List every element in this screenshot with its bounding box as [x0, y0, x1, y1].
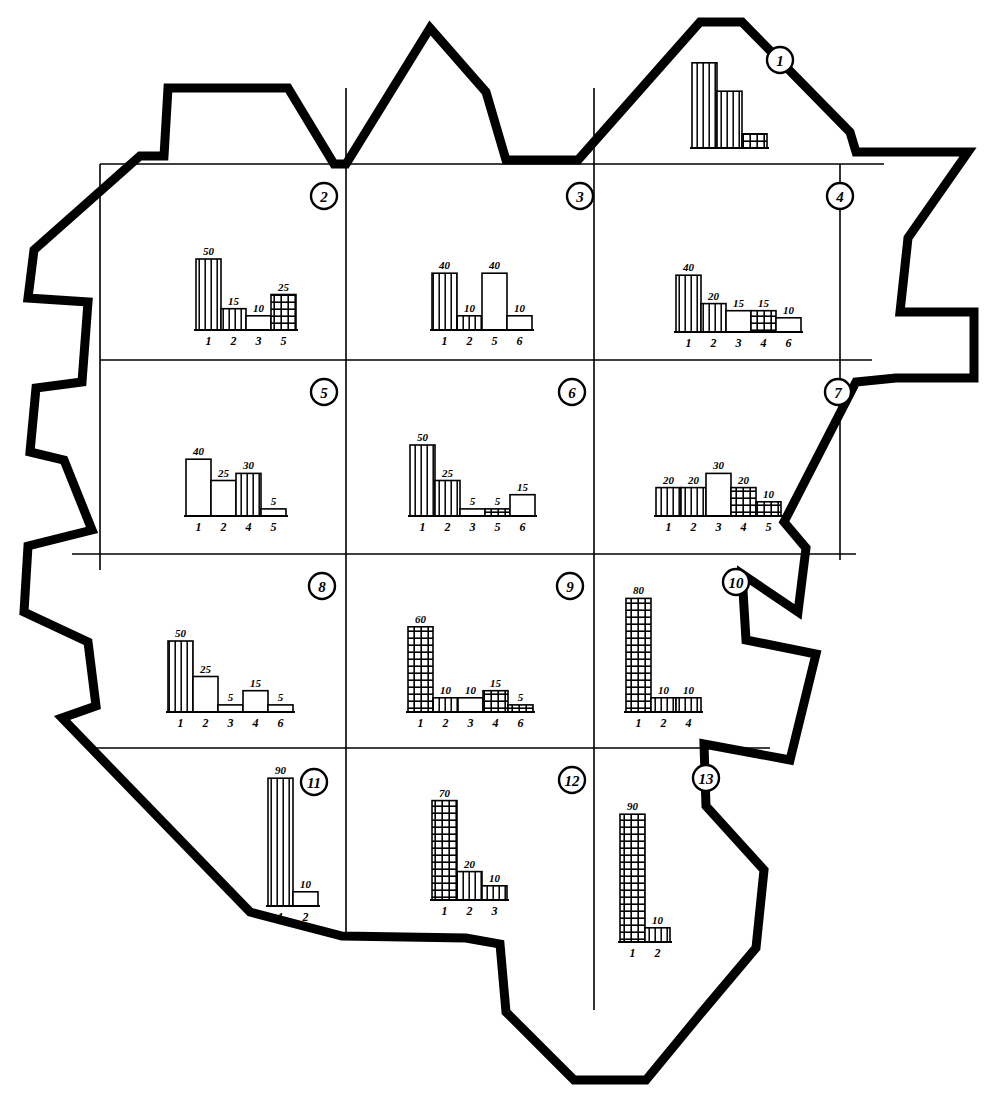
bar-value-label: 25: [217, 467, 230, 479]
district-marker-label: 5: [320, 385, 328, 401]
bar-category-label: 5: [495, 520, 501, 534]
district-marker-12[interactable]: 12: [559, 767, 585, 793]
district-marker-11[interactable]: 11: [301, 769, 327, 795]
bar-value-label: 10: [253, 302, 265, 314]
bar-category-label: 3: [227, 716, 234, 730]
bar-district-4-3: [726, 311, 751, 332]
bar-district-5-4: [261, 509, 286, 516]
bar-district-2-2: [221, 309, 246, 330]
district-marker-13[interactable]: 13: [693, 765, 719, 791]
bar-value-label: 15: [758, 297, 770, 309]
bar-category-label: 1: [442, 904, 448, 918]
district-marker-6[interactable]: 6: [559, 379, 585, 405]
bar-value-label: 20: [463, 858, 476, 870]
bar-category-label: 5: [492, 334, 498, 348]
district-marker-label: 6: [568, 385, 576, 401]
bar-category-label: 4: [760, 336, 767, 350]
bar-district-9-1: [408, 627, 433, 712]
bar-category-label: 6: [517, 334, 523, 348]
bar-value-label: 5: [228, 691, 234, 703]
bar-category-label: 5: [271, 520, 277, 534]
bar-category-label: 2: [444, 520, 451, 534]
district-marker-8[interactable]: 8: [309, 573, 335, 599]
bar-value-label: 30: [712, 459, 725, 471]
bar-value-label: 40: [682, 261, 695, 273]
bar-category-label: 1: [420, 520, 426, 534]
district-marker-label: 1: [776, 53, 784, 69]
district-marker-10[interactable]: 10: [723, 569, 749, 595]
district-marker-9[interactable]: 9: [557, 573, 583, 599]
bar-chart-district-5: 40125230455: [184, 445, 288, 534]
bar-category-label: 1: [636, 716, 642, 730]
bar-value-label: 50: [417, 431, 429, 443]
district-marker-label: 4: [835, 189, 844, 205]
bar-category-label: 4: [252, 716, 259, 730]
bar-district-4-5: [776, 318, 801, 332]
bar-category-label: 3: [491, 904, 498, 918]
bar-value-label: 5: [495, 495, 501, 507]
district-marker-1[interactable]: 1: [767, 47, 793, 73]
bar-district-7-2: [681, 488, 706, 516]
bar-district-11-2: [293, 892, 318, 906]
bar-category-label: 6: [518, 716, 524, 730]
bar-chart-district-7: 201202303204105: [654, 459, 783, 534]
bar-value-label: 15: [250, 677, 262, 689]
bar-value-label: 10: [763, 488, 775, 500]
bar-district-9-4: [483, 691, 508, 712]
bar-category-label: 2: [710, 336, 717, 350]
district-marker-3[interactable]: 3: [567, 183, 593, 209]
district-marker-label: 13: [699, 771, 715, 787]
map-canvas: 5011521032554011024051064012021531541064…: [0, 0, 988, 1107]
district-marker-label: 11: [307, 775, 321, 791]
district-marker-5[interactable]: 5: [311, 379, 337, 405]
bar-value-label: 10: [514, 302, 526, 314]
bar-category-label: 3: [715, 520, 722, 534]
bar-district-10-1: [626, 598, 651, 712]
bar-chart-district-13: 901102: [618, 800, 672, 960]
bar-value-label: 50: [203, 245, 215, 257]
bar-district-6-1: [410, 445, 435, 516]
bar-value-label: 5: [518, 691, 524, 703]
bar-value-label: 5: [470, 495, 476, 507]
bar-value-label: 25: [277, 281, 290, 293]
bar-value-label: 90: [275, 764, 287, 776]
bar-value-label: 10: [465, 684, 477, 696]
bar-value-label: 10: [783, 304, 795, 316]
bar-category-label: 4: [685, 716, 692, 730]
bar-district-9-2: [433, 698, 458, 712]
bar-value-label: 25: [199, 663, 212, 675]
bar-chart-district-8: 5012525315456: [166, 627, 295, 730]
bar-value-label: 10: [300, 878, 312, 890]
bar-district-7-1: [656, 488, 681, 516]
district-charts: 5011521032554011024051064012021531541064…: [166, 63, 803, 960]
bar-chart-district-12: 701202103: [430, 787, 509, 918]
bar-district-5-3: [236, 473, 261, 516]
district-marker-7[interactable]: 7: [825, 379, 851, 405]
bar-district-6-5: [510, 495, 535, 516]
district-marker-2[interactable]: 2: [311, 183, 337, 209]
district-marker-4[interactable]: 4: [827, 183, 853, 209]
bar-category-label: 1: [206, 334, 212, 348]
bar-district-8-3: [218, 705, 243, 712]
bar-district-1-3: [742, 134, 767, 148]
bar-value-label: 10: [440, 684, 452, 696]
bar-district-7-3: [706, 473, 731, 516]
bar-district-8-2: [193, 677, 218, 713]
bar-category-label: 1: [630, 946, 636, 960]
bar-chart-district-2: 501152103255: [194, 245, 298, 348]
bar-district-8-5: [268, 705, 293, 712]
bar-value-label: 30: [242, 459, 255, 471]
bar-district-8-4: [243, 691, 268, 712]
bar-value-label: 10: [464, 302, 476, 314]
bar-district-5-2: [211, 481, 236, 517]
bar-district-8-1: [168, 641, 193, 712]
bar-value-label: 20: [737, 474, 750, 486]
district-marker-label: 8: [318, 579, 326, 595]
bar-value-label: 40: [192, 445, 205, 457]
bar-value-label: 20: [662, 474, 675, 486]
bar-value-label: 25: [441, 467, 454, 479]
bar-value-label: 10: [683, 684, 695, 696]
bar-category-label: 2: [466, 334, 473, 348]
bar-category-label: 1: [278, 910, 284, 924]
bar-district-10-2: [651, 698, 676, 712]
